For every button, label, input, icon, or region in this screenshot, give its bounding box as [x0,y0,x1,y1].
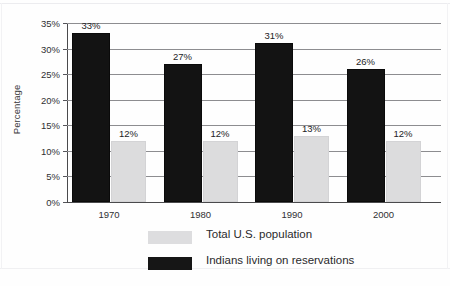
bar-indians-2000 [347,69,385,202]
y-tick-label: 20% [41,94,60,105]
bar-value-label-indians-1980: 27% [173,51,192,62]
gridline-15% [67,125,441,126]
gridline-35% [67,23,441,24]
y-tick-label: 0% [46,197,60,208]
y-tick-mark [63,49,67,50]
y-tick-mark [63,202,67,203]
gridline-25% [67,74,441,75]
bar-total-us-2000 [386,141,421,202]
scan-border-left [1,3,2,269]
legend-swatch-dark [148,257,192,270]
bar-indians-1980 [164,64,202,202]
y-tick-label: 25% [41,69,60,80]
legend-label-indians-on-reservations: Indians living on reservations [206,254,354,266]
bar-value-label-indians-1970: 33% [81,20,100,31]
bar-total-us-1980 [203,141,238,202]
x-tick-label-1990: 1990 [281,209,302,220]
scan-border-bottom [0,268,450,269]
scan-border-right [447,3,448,269]
y-tick-label: 15% [41,120,60,131]
scan-border-top [0,3,450,4]
bar-indians-1990 [255,43,293,202]
x-tick-label-1980: 1980 [190,209,211,220]
y-tick-mark [63,176,67,177]
bar-total-us-1990 [294,136,329,202]
gridline-30% [67,49,441,50]
chart-figure: Percentage 0%5%10%15%20%25%30%35%33%12%1… [0,0,450,286]
x-tick-label-2000: 2000 [373,209,394,220]
y-tick-label: 30% [41,43,60,54]
bar-value-label-total-us-1990: 13% [302,123,321,134]
bar-indians-1970 [72,33,110,202]
y-tick-label: 35% [41,18,60,29]
bar-value-label-indians-2000: 26% [356,56,375,67]
gridline-20% [67,100,441,101]
plot-area: 0%5%10%15%20%25%30%35%33%12%197027%12%19… [67,23,441,203]
y-tick-mark [63,23,67,24]
legend-swatch-light [148,231,192,244]
legend-label-total-us-population: Total U.S. population [206,228,312,240]
y-tick-mark [63,151,67,152]
bar-value-label-indians-1990: 31% [264,30,283,41]
bar-value-label-total-us-1980: 12% [210,128,229,139]
x-tick-label-1970: 1970 [98,209,119,220]
bar-total-us-1970 [111,141,146,202]
bar-value-label-total-us-1970: 12% [119,128,138,139]
y-tick-mark [63,74,67,75]
y-axis-title: Percentage [11,65,22,155]
y-tick-label: 10% [41,145,60,156]
y-tick-mark [63,125,67,126]
x-axis-line [67,202,441,203]
y-tick-label: 5% [46,171,60,182]
bar-value-label-total-us-2000: 12% [393,128,412,139]
y-tick-mark [63,100,67,101]
